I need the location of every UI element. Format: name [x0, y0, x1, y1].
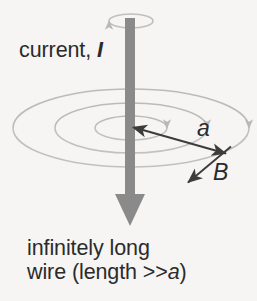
physics-diagram-figure: current, I a B infinitely long wire (len… [0, 0, 257, 301]
current-carrying-wire [115, 18, 145, 226]
current-label-text: current, [19, 38, 91, 62]
wire-shaft [125, 18, 135, 196]
magnetic-field-label: B [213, 160, 228, 186]
caption-line-2-suffix: ) [180, 260, 187, 284]
current-label: current, I [19, 38, 103, 62]
figure-caption: infinitely long wire (length >>a) [27, 236, 187, 284]
current-symbol: I [97, 38, 103, 62]
wire-current-arrowhead [115, 194, 145, 226]
radius-arrow [134, 128, 226, 154]
caption-line-2-prefix: wire (length >> [27, 260, 168, 284]
caption-line-1: infinitely long [27, 236, 187, 260]
radius-label: a [197, 116, 210, 142]
caption-line-2: wire (length >>a) [27, 260, 187, 284]
caption-radius-symbol: a [168, 260, 180, 284]
